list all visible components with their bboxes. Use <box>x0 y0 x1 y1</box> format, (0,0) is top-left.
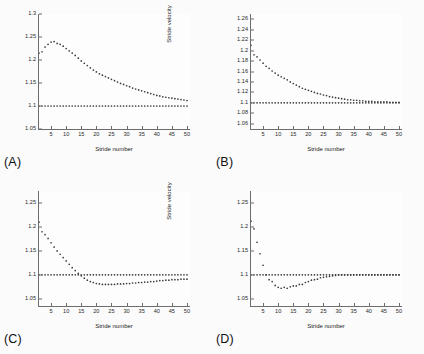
data-point <box>141 105 143 107</box>
data-point <box>368 100 370 102</box>
data-point <box>338 102 340 104</box>
data-point <box>301 284 303 286</box>
x-tick-label: 5 <box>50 132 53 138</box>
x-tick-label: 35 <box>351 309 357 315</box>
data-point <box>353 274 355 276</box>
data-point <box>156 105 158 107</box>
data-point <box>280 76 282 78</box>
data-point <box>138 282 140 284</box>
data-point <box>102 274 104 276</box>
data-point <box>83 274 85 276</box>
data-point <box>368 102 370 104</box>
data-point <box>144 274 146 276</box>
data-point <box>83 105 85 107</box>
y-tick-label: 1.2 <box>28 224 36 230</box>
data-point <box>329 274 331 276</box>
data-point <box>153 274 155 276</box>
y-tick-label: 1.05 <box>25 296 36 302</box>
x-tick-label: 50 <box>396 309 402 315</box>
data-point <box>108 284 110 286</box>
x-tick-mark <box>81 303 82 306</box>
data-point <box>132 87 134 89</box>
data-point <box>129 105 131 107</box>
scatter-plot-b <box>251 14 402 129</box>
x-tick-label: 10 <box>63 309 69 315</box>
y-tick-mark <box>251 274 254 275</box>
data-point <box>359 100 361 102</box>
data-point <box>56 250 58 252</box>
data-point <box>74 274 76 276</box>
data-point <box>147 274 149 276</box>
data-point <box>265 102 267 104</box>
data-point <box>359 274 361 276</box>
data-point <box>53 274 55 276</box>
data-point <box>150 105 152 107</box>
data-point <box>277 102 279 104</box>
y-tick-mark <box>39 37 42 38</box>
data-point <box>47 238 49 240</box>
x-tick-label: 45 <box>169 309 175 315</box>
data-point <box>120 283 122 285</box>
panel-tag-a: (A) <box>4 155 21 169</box>
data-point <box>377 102 379 104</box>
data-point <box>114 274 116 276</box>
data-point <box>68 274 70 276</box>
data-point <box>59 44 61 46</box>
data-point <box>56 105 58 107</box>
data-point <box>153 105 155 107</box>
data-point <box>132 274 134 276</box>
y-tick-mark <box>39 298 42 299</box>
data-point <box>171 105 173 107</box>
data-point <box>153 94 155 96</box>
data-point <box>171 97 173 99</box>
data-point <box>123 105 125 107</box>
data-point <box>62 45 64 47</box>
y-tick-label: 1.06 <box>237 121 248 127</box>
x-tick-mark <box>51 126 52 129</box>
data-point <box>96 283 98 285</box>
data-point <box>123 274 125 276</box>
data-point <box>89 274 91 276</box>
data-point <box>295 102 297 104</box>
data-point <box>308 281 310 283</box>
x-tick-label: 40 <box>154 132 160 138</box>
data-point <box>165 105 167 107</box>
data-point <box>326 276 328 278</box>
panel-c: 1.051.11.151.21.255101520253035404550 St… <box>0 177 212 354</box>
data-point <box>77 274 79 276</box>
data-point <box>74 105 76 107</box>
data-point <box>353 99 355 101</box>
x-tick-label: 45 <box>381 309 387 315</box>
data-point <box>280 274 282 276</box>
data-point <box>162 280 164 282</box>
data-point <box>289 286 291 288</box>
y-tick-label: 1.25 <box>237 200 248 206</box>
data-point <box>271 102 273 104</box>
y-tick-label: 1.1 <box>240 100 248 106</box>
data-point <box>74 55 76 57</box>
data-point <box>283 77 285 79</box>
data-point <box>277 286 279 288</box>
data-point <box>371 100 373 102</box>
x-tick-mark <box>354 126 355 129</box>
y-tick-label: 1.25 <box>25 200 36 206</box>
data-point <box>380 274 382 276</box>
data-point <box>177 98 179 100</box>
data-point <box>120 105 122 107</box>
series-reference <box>39 105 188 107</box>
data-point <box>86 105 88 107</box>
data-point <box>298 274 300 276</box>
data-point <box>292 274 294 276</box>
data-point <box>123 84 125 86</box>
x-tick-label: 45 <box>381 132 387 138</box>
data-point <box>344 98 346 100</box>
data-point <box>111 284 113 286</box>
y-tick-label: 1.2 <box>240 48 248 54</box>
x-tick-mark <box>369 126 370 129</box>
data-point <box>371 102 373 104</box>
data-point <box>153 281 155 283</box>
y-tick-label: 1.1 <box>28 103 36 109</box>
data-point <box>171 274 173 276</box>
x-tick-mark <box>263 126 264 129</box>
data-point <box>338 97 340 99</box>
